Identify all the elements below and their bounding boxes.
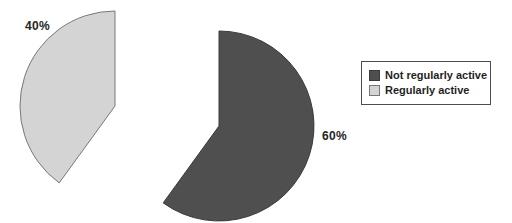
slice-value-label-regularly-active: 40%	[25, 19, 50, 33]
legend-swatch-light-icon	[369, 85, 380, 96]
pie-chart-figure: 40% 60% Not regularly active Regularly a…	[0, 0, 512, 223]
pie-slice-regularly-active	[20, 11, 115, 183]
legend: Not regularly active Regularly active	[361, 61, 491, 105]
legend-label-regularly-active: Regularly active	[385, 84, 469, 97]
legend-item-regularly-active: Regularly active	[369, 84, 490, 97]
pie-slice-not-regularly-active	[163, 31, 314, 221]
slice-value-label-not-regularly-active: 60%	[322, 129, 347, 143]
legend-item-not-regularly-active: Not regularly active	[369, 69, 490, 82]
legend-label-not-regularly-active: Not regularly active	[385, 69, 487, 82]
pie-chart	[0, 0, 512, 223]
legend-swatch-dark-icon	[369, 70, 380, 81]
